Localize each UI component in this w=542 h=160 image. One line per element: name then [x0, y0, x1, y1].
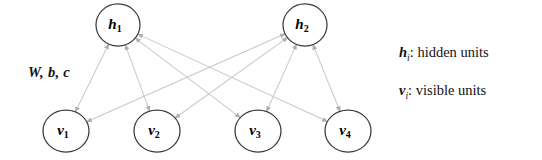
node-v4[interactable]: v4 — [325, 110, 371, 152]
node-h1[interactable]: h1 — [96, 4, 140, 46]
edge-h2-v2 — [175, 38, 287, 118]
edge-h2-v3 — [267, 44, 297, 111]
edge-h2-v1 — [87, 34, 285, 122]
legend-hidden-symbol: hi — [399, 44, 410, 60]
node-label-sub-h2: 2 — [304, 23, 309, 34]
edge-h2-v4 — [313, 45, 340, 112]
legend-visible-units: vi: visible units — [399, 82, 486, 101]
parameters-label: W, b, c — [28, 64, 70, 81]
node-label-sub-v3: 3 — [256, 129, 261, 140]
node-v3[interactable]: v3 — [235, 110, 281, 152]
edge-h1-v2 — [125, 45, 149, 111]
edge-h1-v1 — [75, 44, 108, 112]
node-v2[interactable]: v2 — [134, 110, 180, 152]
node-label-sub-h1: 1 — [117, 23, 122, 34]
rbm-diagram-figure: h1h2v1v2v3v4 W, b, c hi: hidden units vi… — [0, 0, 542, 160]
legend-visible-separator: : — [408, 82, 416, 98]
graph-canvas: h1h2v1v2v3v4 — [0, 0, 542, 160]
node-label-sub-v4: 4 — [346, 129, 351, 140]
node-label-sub-v2: 2 — [155, 129, 160, 140]
legend-visible-description: visible units — [416, 82, 487, 98]
edges-group — [75, 34, 340, 122]
legend-hidden-symbol-base: h — [399, 44, 407, 60]
node-h2[interactable]: h2 — [283, 4, 327, 46]
node-label-sub-v1: 1 — [64, 129, 69, 140]
edge-h1-v3 — [135, 38, 240, 118]
edge-h1-v4 — [138, 34, 328, 121]
legend-hidden-description: hidden units — [417, 44, 488, 60]
legend-visible-symbol: vi — [399, 82, 408, 98]
legend-hidden-units: hi: hidden units — [399, 44, 489, 63]
node-v1[interactable]: v1 — [43, 110, 89, 152]
